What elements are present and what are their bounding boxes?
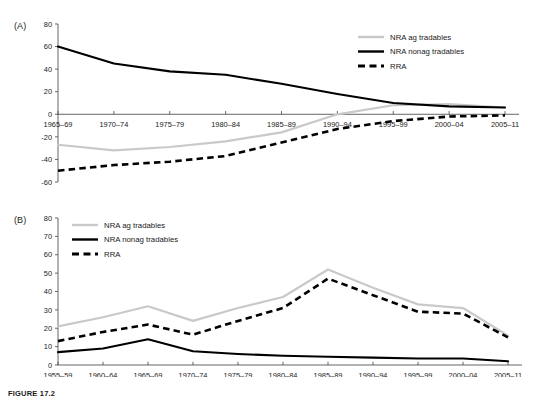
x-tick-label: 2000–04 — [449, 371, 478, 378]
y-tick-label: 40 — [44, 287, 52, 296]
x-tick-label: 1985–89 — [314, 371, 343, 378]
panel-b-plot: 010203040506070801955–591960–641965–6919… — [0, 197, 543, 377]
x-tick-label: 1990–94 — [359, 371, 388, 378]
x-tick-label: 1960–64 — [89, 371, 118, 378]
panel-a-plot: -60-40-200204060801965–691970–741975–791… — [0, 0, 543, 200]
x-tick-label: 1975–79 — [155, 120, 184, 129]
legend-label: NRA ag tradables — [390, 33, 451, 42]
legend-label: RRA — [104, 250, 121, 259]
x-tick-label: 1975–79 — [224, 371, 253, 378]
x-tick-label: 1965–69 — [134, 371, 163, 378]
chart-panel-b: (B) 010203040506070801955–591960–641965–… — [0, 197, 543, 377]
figure-caption: FIGURE 17.2 — [8, 389, 55, 400]
y-tick-label: 80 — [44, 214, 52, 223]
figure-container: (A) -60-40-200204060801965–691970–741975… — [0, 0, 543, 400]
x-tick-label: 1970–74 — [179, 371, 208, 378]
x-tick-label: 1965–69 — [44, 120, 73, 129]
series-line — [58, 339, 508, 361]
y-tick-label: 20 — [44, 87, 52, 96]
legend-label: RRA — [390, 62, 407, 71]
y-tick-label: 20 — [44, 324, 52, 333]
y-tick-label: 60 — [44, 42, 52, 51]
y-tick-label: 30 — [44, 306, 52, 315]
y-tick-label: 50 — [44, 269, 52, 278]
series-line — [58, 279, 508, 341]
y-tick-label: 10 — [44, 342, 52, 351]
y-tick-label: -60 — [41, 178, 52, 187]
y-tick-label: 70 — [44, 232, 52, 241]
y-tick-label: 60 — [44, 250, 52, 259]
x-tick-label: 1995–99 — [404, 371, 433, 378]
x-tick-label: 1980–84 — [211, 120, 240, 129]
y-tick-label: -40 — [41, 155, 52, 164]
x-tick-label: 1995–99 — [379, 120, 408, 129]
legend-label: NRA nonag tradables — [104, 235, 178, 244]
series-line — [58, 269, 508, 335]
y-tick-label: -20 — [41, 133, 52, 142]
y-tick-label: 0 — [48, 110, 52, 119]
chart-panel-a: (A) -60-40-200204060801965–691970–741975… — [0, 0, 543, 200]
x-tick-label: 2005–11 — [494, 371, 522, 378]
legend-label: NRA ag tradables — [104, 221, 165, 230]
y-tick-label: 0 — [48, 361, 52, 370]
x-tick-label: 1970–74 — [99, 120, 128, 129]
y-tick-label: 80 — [44, 20, 52, 29]
legend-label: NRA nonag tradables — [390, 47, 464, 56]
x-tick-label: 1980–84 — [269, 371, 298, 378]
y-tick-label: 40 — [44, 65, 52, 74]
x-tick-label: 1985–89 — [267, 120, 296, 129]
x-tick-label: 2000–04 — [435, 120, 464, 129]
x-tick-label: 1955–59 — [44, 371, 73, 378]
x-tick-label: 2005–11 — [491, 120, 519, 129]
